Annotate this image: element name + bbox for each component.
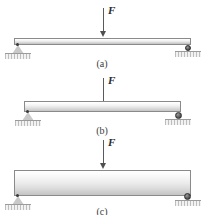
caption-b: (b) (0, 125, 204, 136)
medium-beam-b (24, 101, 181, 112)
arrow-head-icon (100, 163, 106, 169)
panel-a: F (a) (0, 0, 204, 72)
caption-a: (a) (0, 58, 204, 69)
roller-support-c (184, 193, 191, 200)
arrow-head-icon (100, 31, 106, 37)
beam-deflection-figure: F (a) F (b) (0, 0, 204, 215)
pin-hinge-dot-icon (16, 43, 19, 46)
ground-hatch-right-a (175, 51, 201, 57)
pin-hinge-dot-icon (26, 110, 29, 113)
deep-beam-c (14, 170, 191, 196)
force-label-b: F (108, 75, 115, 85)
pin-hinge-dot-icon (16, 194, 19, 197)
arrow-shaft (103, 78, 104, 102)
shallow-beam-a (14, 38, 191, 45)
caption-c: (c) (0, 206, 204, 215)
panel-c: F (c) (0, 140, 204, 215)
force-arrow-a: F (95, 8, 125, 38)
arrow-shaft (103, 8, 104, 32)
force-label-a: F (108, 5, 115, 15)
roller-wheel-icon (184, 193, 191, 200)
roller-support-b (175, 112, 182, 119)
arrow-shaft (103, 140, 104, 164)
force-arrow-c: F (95, 140, 125, 170)
roller-wheel-icon (175, 112, 182, 119)
panel-b: F (b) (0, 70, 204, 142)
force-label-c: F (108, 137, 115, 147)
